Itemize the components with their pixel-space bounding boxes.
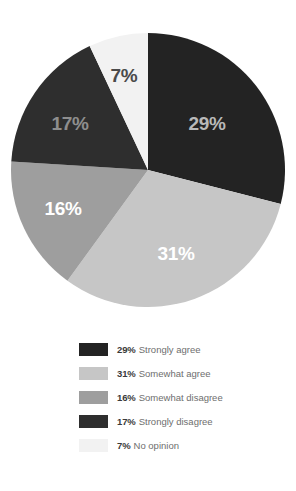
legend-item-percent: 29%: [117, 344, 136, 355]
pie-slice-value-label: 29%: [188, 113, 226, 134]
legend-item-label: Somewhat agree: [139, 368, 211, 379]
legend-item-percent: 31%: [117, 368, 136, 379]
legend-item[interactable]: 16%Somewhat disagree: [0, 385, 296, 409]
pie-slice-value-label: 16%: [44, 198, 82, 219]
chart-legend: 29%Strongly agree31%Somewhat agree16%Som…: [0, 337, 296, 457]
legend-color-swatch: [79, 415, 108, 428]
legend-item-label: Strongly agree: [139, 344, 201, 355]
legend-item-text: 7%No opinion: [117, 439, 179, 452]
pie-slice-value-label: 7%: [111, 65, 138, 86]
legend-item-percent: 16%: [117, 392, 136, 403]
legend-item-label: Strongly disagree: [139, 416, 213, 427]
legend-item-percent: 17%: [117, 416, 136, 427]
pie-chart-svg: 29%31%16%17%7%: [0, 0, 296, 330]
legend-item-text: 16%Somewhat disagree: [117, 391, 223, 404]
legend-item[interactable]: 7%No opinion: [0, 433, 296, 457]
legend-color-swatch: [79, 439, 108, 452]
legend-item[interactable]: 29%Strongly agree: [0, 337, 296, 361]
pie-chart-figure: 29%31%16%17%7%: [0, 0, 296, 330]
legend-item-text: 31%Somewhat agree: [117, 367, 211, 380]
legend-item-text: 17%Strongly disagree: [117, 415, 213, 428]
pie-slice-value-label: 17%: [51, 113, 89, 134]
legend-item-percent: 7%: [117, 440, 131, 451]
legend-item[interactable]: 17%Strongly disagree: [0, 409, 296, 433]
legend-item[interactable]: 31%Somewhat agree: [0, 361, 296, 385]
legend-item-text: 29%Strongly agree: [117, 343, 201, 356]
legend-item-label: Somewhat disagree: [139, 392, 223, 403]
pie-slice-value-label: 31%: [157, 243, 195, 264]
pie-slice-group: [11, 33, 285, 307]
legend-color-swatch: [79, 391, 108, 404]
legend-color-swatch: [79, 343, 108, 356]
legend-color-swatch: [79, 367, 108, 380]
legend-item-label: No opinion: [134, 440, 179, 451]
